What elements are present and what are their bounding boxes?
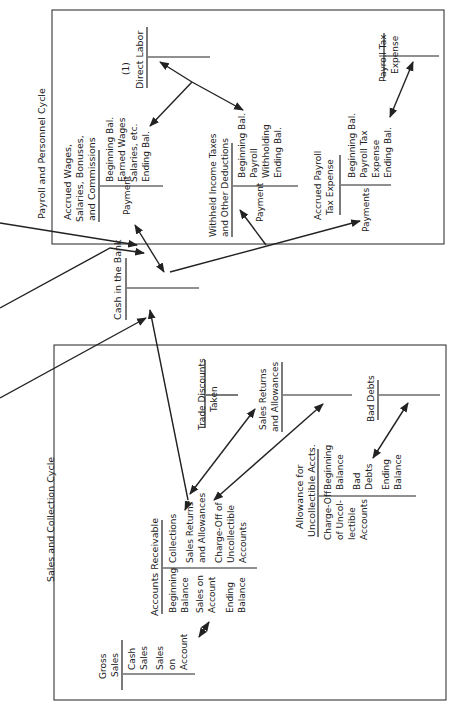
- svg-text:of Uncol-: of Uncol-: [335, 500, 345, 540]
- svg-text:Sales: Sales: [139, 646, 149, 670]
- arrow-wages-payment-cash: [135, 225, 164, 272]
- svg-text:Account: Account: [179, 633, 189, 670]
- svg-text:Payment: Payment: [255, 182, 265, 222]
- svg-text:Ending Bal.: Ending Bal.: [383, 127, 393, 178]
- svg-text:Expense: Expense: [371, 139, 381, 178]
- t-account-bad-debts: Bad Debts: [366, 375, 440, 422]
- svg-text:Bad Debts: Bad Debts: [366, 375, 376, 422]
- svg-text:Balance: Balance: [393, 454, 403, 490]
- svg-text:Accrued Payroll: Accrued Payroll: [313, 151, 323, 220]
- svg-text:Beginning Bal.: Beginning Bal.: [347, 113, 357, 178]
- svg-text:Balance: Balance: [180, 577, 190, 613]
- svg-text:Beginning: Beginning: [323, 445, 333, 490]
- svg-text:Cash in the Bank: Cash in the Bank: [112, 239, 123, 320]
- svg-text:Uncollectible: Uncollectible: [226, 505, 236, 563]
- sales-cycle-title: Sales and Collection Cycle: [45, 457, 56, 582]
- svg-text:Collections: Collections: [168, 513, 178, 563]
- svg-text:(1): (1): [121, 62, 131, 75]
- svg-text:lectible: lectible: [347, 507, 357, 540]
- arrow-external-3: [0, 318, 146, 398]
- svg-text:Balance: Balance: [335, 454, 345, 490]
- svg-text:Gross: Gross: [98, 653, 108, 679]
- svg-text:Direct Labor: Direct Labor: [134, 31, 145, 89]
- svg-text:Expense: Expense: [390, 35, 400, 74]
- svg-text:and Other Deductions: and Other Deductions: [220, 138, 230, 237]
- svg-text:Ending Bal.: Ending Bal.: [273, 127, 283, 178]
- arrow-sales-on-account: [199, 622, 209, 637]
- t-account-accrued-payroll-tax: Accrued Payroll Tax Expense Payments Beg…: [313, 113, 393, 232]
- t-account-payroll-tax-expense: Payroll Tax Expense: [378, 33, 439, 82]
- t-account-gross-sales: Gross Sales Cash Sales Sales on Account: [98, 633, 195, 690]
- t-account-direct-labor: (1) Direct Labor: [121, 27, 210, 89]
- svg-text:and Commissions: and Commissions: [86, 137, 97, 221]
- svg-text:Accrued Wages,: Accrued Wages,: [62, 144, 73, 220]
- svg-text:and Allowances: and Allowances: [197, 492, 207, 563]
- svg-text:Uncollectible Accts.: Uncollectible Accts.: [306, 444, 317, 537]
- svg-text:Ending: Ending: [381, 459, 391, 490]
- svg-text:on: on: [167, 659, 177, 670]
- svg-text:Cash: Cash: [127, 648, 137, 670]
- svg-text:and Allowances: and Allowances: [270, 361, 280, 432]
- svg-text:Debts: Debts: [364, 463, 374, 490]
- svg-text:Payroll: Payroll: [249, 148, 259, 178]
- arrow-direct-labor-accrued: [150, 82, 192, 126]
- svg-text:Charge-Off: Charge-Off: [323, 490, 333, 540]
- svg-text:Beginning Bal.: Beginning Bal.: [237, 113, 247, 178]
- svg-text:Accounts Receivable: Accounts Receivable: [149, 518, 160, 616]
- svg-text:Earned Wages: Earned Wages: [117, 117, 127, 182]
- t-account-accrued-wages: Accrued Wages, Salaries, Bonuses, and Co…: [62, 117, 163, 222]
- svg-text:Salaries, etc.: Salaries, etc.: [129, 124, 139, 182]
- svg-text:Withheld Income Taxes: Withheld Income Taxes: [208, 133, 218, 237]
- svg-text:Payroll Tax: Payroll Tax: [378, 34, 388, 82]
- arrow-direct-labor: [160, 62, 192, 82]
- svg-text:Balance: Balance: [237, 577, 247, 613]
- sales-cycle-box: [54, 345, 446, 700]
- payroll-cycle-title: Payroll and Personnel Cycle: [36, 88, 47, 219]
- svg-text:Sales Returns: Sales Returns: [185, 501, 195, 563]
- svg-text:Sales: Sales: [155, 646, 165, 670]
- t-account-allowance: Allowance for Uncollectible Accts. Charg…: [294, 444, 416, 540]
- svg-text:Payroll Tax: Payroll Tax: [359, 130, 369, 178]
- svg-text:Bad: Bad: [352, 473, 362, 490]
- svg-text:Withholding: Withholding: [261, 124, 271, 178]
- svg-text:Charge-Off of: Charge-Off of: [214, 502, 224, 563]
- arrow-direct-labor-withheld: [192, 82, 243, 110]
- svg-text:Allowance for: Allowance for: [294, 465, 305, 529]
- svg-text:Salaries, Bonuses,: Salaries, Bonuses,: [74, 135, 85, 222]
- t-account-trade-discounts: Trade Discounts Taken: [197, 358, 238, 431]
- svg-text:Ending: Ending: [225, 582, 235, 613]
- svg-text:Ending Bal.: Ending Bal.: [141, 131, 151, 182]
- cycle-diagram: Payroll and Personnel Cycle (1) Direct L…: [0, 0, 460, 710]
- svg-text:Taken: Taken: [209, 386, 219, 413]
- t-account-accounts-receivable: Accounts Receivable Beginning Balance Sa…: [149, 492, 257, 616]
- svg-text:Accounts: Accounts: [359, 499, 369, 540]
- svg-text:Sales: Sales: [110, 653, 120, 677]
- svg-text:Beginning: Beginning: [168, 568, 178, 613]
- t-account-sales-returns: Sales Returns and Allowances: [258, 361, 352, 432]
- arrow-cash-payroll-tax: [170, 221, 360, 272]
- arrow-collections-cash: [150, 310, 188, 500]
- arrow-external-1: [0, 223, 137, 245]
- svg-text:Beginning Bal.: Beginning Bal.: [105, 117, 115, 182]
- svg-text:Sales Returns: Sales Returns: [258, 368, 268, 430]
- svg-text:Account: Account: [207, 576, 217, 613]
- svg-text:Payments: Payments: [361, 188, 371, 232]
- svg-text:Sales on: Sales on: [195, 575, 205, 613]
- svg-text:Tax Expense: Tax Expense: [325, 159, 335, 216]
- t-account-withheld-taxes: Withheld Income Taxes and Other Deductio…: [208, 113, 298, 237]
- svg-text:Accounts: Accounts: [238, 522, 248, 563]
- t-account-cash: Cash in the Bank: [112, 239, 199, 320]
